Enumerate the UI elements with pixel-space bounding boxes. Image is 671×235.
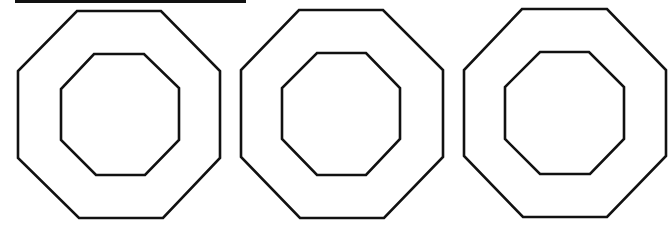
inner-octagon — [282, 53, 400, 175]
octagon-diagram — [0, 0, 671, 235]
outer-octagon — [18, 11, 220, 218]
octagon-ring-3 — [464, 9, 666, 217]
inner-octagon — [505, 52, 624, 174]
octagon-ring-2 — [241, 10, 443, 218]
octagon-ring-1 — [18, 11, 220, 218]
outer-octagon — [241, 10, 443, 218]
outer-octagon — [464, 9, 666, 217]
inner-octagon — [61, 54, 179, 175]
